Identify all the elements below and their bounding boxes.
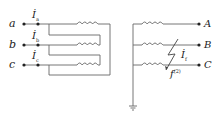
current-label-b: İb	[32, 31, 39, 43]
terminal-label-C: C	[204, 60, 212, 70]
terminal-label-B: B	[204, 40, 211, 50]
current-label-a: İa	[32, 10, 39, 22]
fault-type-label: f(2)	[170, 69, 181, 79]
current-subscript: a	[36, 16, 39, 22]
current-subscript: f	[185, 56, 187, 62]
current-subscript: c	[36, 57, 39, 63]
circuit-diagram: a b c İa İb İc A B C İf f(2)	[0, 0, 224, 120]
terminal-label-c: c	[9, 59, 15, 70]
terminal-label-b: b	[9, 39, 16, 50]
terminal-label-a: a	[9, 18, 16, 29]
current-subscript: b	[36, 37, 39, 43]
fault-superscript: (2)	[174, 68, 181, 74]
terminal-label-A: A	[204, 19, 211, 29]
fault-current-label: İf	[181, 50, 187, 62]
current-label-c: İc	[32, 51, 39, 63]
